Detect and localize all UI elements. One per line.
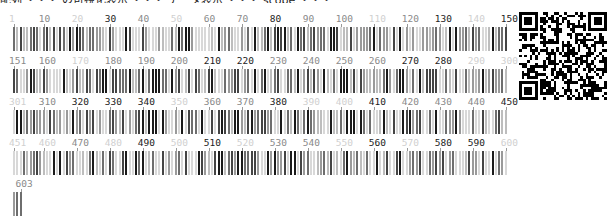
residue-bar <box>135 69 137 93</box>
residue-bar <box>445 151 447 175</box>
residue-bar <box>488 27 490 51</box>
residue-bar <box>277 27 279 51</box>
residue-bar <box>343 110 345 134</box>
residue-bar <box>33 110 35 134</box>
residue-bar <box>53 110 55 134</box>
residue-bar <box>363 151 365 175</box>
residue-bar <box>280 151 282 175</box>
residue-bar <box>122 27 124 51</box>
sequence-row: 4514604704804905005105205305405505605705… <box>0 137 520 177</box>
residue-bar <box>191 69 193 93</box>
residue-bar <box>386 27 388 51</box>
residue-bars <box>0 151 520 175</box>
residue-bar <box>162 27 164 51</box>
residue-bar <box>214 110 216 134</box>
residue-bar <box>224 110 226 134</box>
residue-bar <box>76 69 78 93</box>
residue-bar <box>505 110 507 134</box>
residue-bar <box>30 27 32 51</box>
residue-bar <box>119 110 121 134</box>
residue-bar <box>244 151 246 175</box>
residue-bar <box>284 27 286 51</box>
residue-bar <box>396 151 398 175</box>
residue-bar <box>399 69 401 93</box>
residue-bar <box>267 110 269 134</box>
residue-bar <box>492 110 494 134</box>
position-label: 310 <box>39 96 56 107</box>
residue-bar <box>449 110 451 134</box>
residue-bar <box>86 151 88 175</box>
residue-bar <box>432 69 434 93</box>
position-label: 100 <box>336 13 353 24</box>
residue-bar <box>333 69 335 93</box>
residue-bar <box>218 110 220 134</box>
position-label: 500 <box>171 137 188 148</box>
residue-bar <box>59 69 61 93</box>
residue-bar <box>211 27 213 51</box>
residue-bar <box>320 110 322 134</box>
residue-bar <box>218 69 220 93</box>
residue-bar <box>327 110 329 134</box>
residue-bar <box>482 27 484 51</box>
residue-bar <box>112 69 114 93</box>
residue-bar <box>320 69 322 93</box>
residue-bar <box>251 110 253 134</box>
residue-bar <box>148 151 150 175</box>
position-label: 10 <box>39 13 50 24</box>
residue-bar <box>419 69 421 93</box>
residue-bar <box>270 69 272 93</box>
residue-bar <box>181 110 183 134</box>
residue-bar <box>452 110 454 134</box>
residue-bar <box>465 110 467 134</box>
residue-bar <box>389 69 391 93</box>
residue-bar <box>406 110 408 134</box>
residue-bar <box>422 151 424 175</box>
residue-bar <box>379 69 381 93</box>
residue-bar <box>300 69 302 93</box>
residue-bar <box>465 151 467 175</box>
residue-bar <box>429 69 431 93</box>
position-label: 410 <box>369 96 386 107</box>
residue-bar <box>353 69 355 93</box>
residue-bar <box>112 110 114 134</box>
residue-bar <box>488 110 490 134</box>
residue-bar <box>208 69 210 93</box>
position-label: 510 <box>204 137 221 148</box>
residue-bar <box>435 110 437 134</box>
residue-bar <box>16 110 18 134</box>
position-label: 300 <box>501 55 518 66</box>
residue-bar <box>165 151 167 175</box>
residue-bar <box>195 27 197 51</box>
residue-bar <box>468 69 470 93</box>
residue-bar <box>402 27 404 51</box>
residue-bar <box>36 110 38 134</box>
residue-bar <box>16 69 18 93</box>
residue-bars <box>0 69 520 93</box>
residue-bar <box>241 27 243 51</box>
position-ruler: 3013103203303403503603703803904004104204… <box>0 96 520 110</box>
residue-bar <box>26 151 28 175</box>
residue-bar <box>366 69 368 93</box>
residue-bar <box>112 27 114 51</box>
residue-bar <box>327 151 329 175</box>
residue-bar <box>244 110 246 134</box>
residue-bar <box>303 110 305 134</box>
residue-bar <box>409 110 411 134</box>
residue-bar <box>442 69 444 93</box>
residue-bar <box>13 151 15 175</box>
residue-bar <box>373 110 375 134</box>
residue-bar <box>294 110 296 134</box>
residue-bar <box>330 110 332 134</box>
residue-bar <box>320 27 322 51</box>
residue-bar <box>13 192 15 216</box>
residue-bar <box>138 69 140 93</box>
residue-bar <box>376 110 378 134</box>
residue-bar <box>254 110 256 134</box>
position-label: 570 <box>402 137 419 148</box>
residue-bar <box>244 69 246 93</box>
residue-bar <box>412 27 414 51</box>
residue-bar <box>129 69 131 93</box>
residue-bar <box>346 69 348 93</box>
position-label: 210 <box>204 55 221 66</box>
residue-bar <box>445 69 447 93</box>
